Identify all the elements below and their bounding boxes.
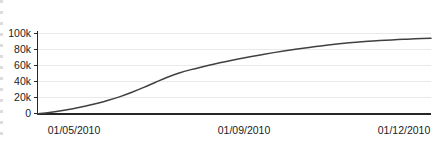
x-axis-label-3: 01/12/2010 bbox=[378, 124, 431, 136]
plot-background bbox=[37, 32, 431, 115]
x-axis-label-2: 01/09/2010 bbox=[218, 124, 271, 136]
y-axis-labels: 100k 80k 60k 40k 20k 0 bbox=[8, 27, 32, 119]
y-axis-label-0: 0 bbox=[25, 107, 31, 119]
x-axis-labels: 01/05/2010 01/09/2010 01/12/2010 bbox=[48, 124, 431, 136]
y-axis-label-40k: 40k bbox=[14, 75, 32, 87]
y-axis-label-20k: 20k bbox=[14, 91, 32, 103]
y-axis-label-60k: 60k bbox=[14, 59, 32, 71]
y-axis-ticks bbox=[34, 34, 37, 114]
y-axis-label-100k: 100k bbox=[8, 27, 32, 39]
line-chart: 100k 80k 60k 40k 20k 0 01/05/2010 01/09/… bbox=[0, 0, 436, 143]
y-axis-label-80k: 80k bbox=[14, 43, 32, 55]
x-axis-label-1: 01/05/2010 bbox=[48, 124, 101, 136]
chart-screenshot: 100k 80k 60k 40k 20k 0 01/05/2010 01/09/… bbox=[0, 0, 436, 143]
